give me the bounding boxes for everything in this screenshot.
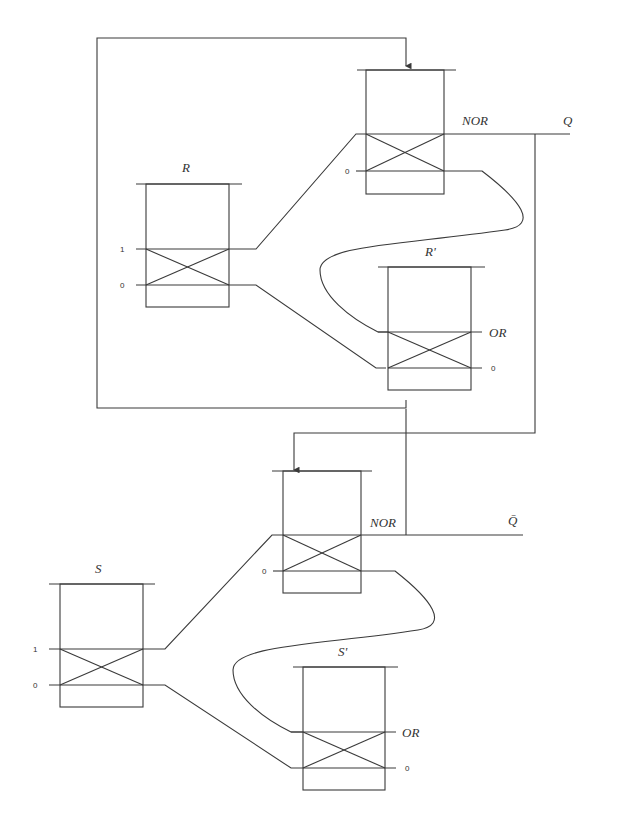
nor-block-upper: NOR 0 xyxy=(345,70,488,194)
nor-block-lower: NOR 0 xyxy=(262,471,396,593)
s-prime-label: S' xyxy=(338,644,348,659)
s-label: S xyxy=(95,561,102,576)
nor-pin-lower: 0 xyxy=(262,567,267,576)
wire-r1-nor xyxy=(242,134,366,249)
s-curve-wire-upper xyxy=(320,171,523,332)
upper-latch: NOR 0 Q R 1 0 R' O xyxy=(97,38,573,470)
r-label: R xyxy=(181,160,190,175)
nor-label-upper: NOR xyxy=(461,113,488,128)
latch-diagram: NOR 0 Q R 1 0 R' O xyxy=(0,0,639,837)
or-pin-upper: 0 xyxy=(491,364,496,373)
or-label-lower: OR xyxy=(402,725,419,740)
feedback-wire-qbar xyxy=(97,38,406,408)
qbar-output-label: Q̄ xyxy=(508,513,518,528)
r-pin-0: 0 xyxy=(120,281,125,290)
s-pin-0: 0 xyxy=(33,681,38,690)
q-output-label: Q xyxy=(563,113,573,128)
lower-latch: NOR 0 Q̄ S 1 0 S' OR 0 xyxy=(33,409,523,790)
nor-pin-upper: 0 xyxy=(345,167,350,176)
s-pin-1: 1 xyxy=(33,645,38,654)
r-block: R 1 0 xyxy=(120,160,242,307)
wire-s1-nor xyxy=(155,535,283,649)
or-label-upper: OR xyxy=(489,325,506,340)
or-block-upper: R' OR 0 xyxy=(378,244,506,390)
nor-label-lower: NOR xyxy=(369,515,396,530)
or-pin-lower: 0 xyxy=(405,764,410,773)
s-block: S 1 0 xyxy=(33,561,155,707)
r-prime-label: R' xyxy=(424,244,436,259)
r-pin-1: 1 xyxy=(120,245,125,254)
wire-r0-or xyxy=(242,285,386,368)
or-block-lower: S' OR 0 xyxy=(291,644,419,790)
s-curve-wire-lower xyxy=(233,571,435,732)
